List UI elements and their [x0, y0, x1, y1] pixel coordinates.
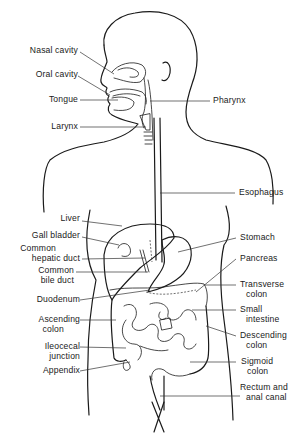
leader-duodenum — [80, 290, 150, 300]
label-transverse-colon: Transverse colon — [240, 280, 284, 300]
label-pancreas: Pancreas — [240, 254, 278, 264]
liver-shape — [104, 224, 174, 300]
label-common-hepatic-duct: Common hepatic duct — [20, 244, 80, 264]
label-liver: Liver — [61, 214, 80, 224]
label-duodenum: Duodenum — [37, 295, 80, 305]
label-small-intestine: Small intestine — [240, 305, 279, 325]
label-oral-cavity: Oral cavity — [36, 70, 78, 80]
label-gall-bladder: Gall bladder — [32, 231, 80, 241]
label-stomach: Stomach — [240, 233, 275, 243]
label-tongue: Tongue — [49, 95, 78, 105]
bile-ducts — [140, 250, 149, 272]
torso-right — [221, 206, 233, 420]
label-appendix: Appendix — [43, 366, 80, 376]
label-common-bile-duct: Common bile duct — [38, 266, 74, 286]
torso-left — [87, 210, 96, 415]
appendix-shape — [123, 360, 130, 370]
sigmoid-colon-shape — [152, 369, 190, 380]
leader-nasal-cavity — [80, 52, 114, 74]
palate — [110, 89, 146, 104]
label-descending-colon: Descending colon — [240, 331, 287, 351]
head-outline — [104, 12, 273, 204]
pharynx-wall — [148, 80, 153, 140]
label-ileocecal-junction: Ileocecal junction — [45, 342, 80, 362]
leader-ileocecal-junction — [80, 347, 126, 348]
label-nasal-cavity: Nasal cavity — [30, 46, 78, 56]
digestive-system-diagram: Nasal cavity Oral cavity Tongue Larynx L… — [0, 0, 306, 439]
larynx-shape — [140, 114, 150, 130]
leader-oral-cavity — [78, 76, 110, 95]
label-ascending-colon: Ascending colon — [39, 315, 80, 335]
esophagus-tube — [154, 118, 156, 260]
ascending-colon-shape — [111, 300, 126, 361]
leader-common-hepatic-duct — [82, 258, 145, 259]
nasal-cavity-shape — [112, 63, 146, 83]
leader-descending-colon — [206, 326, 236, 336]
label-larynx: Larynx — [51, 122, 78, 132]
label-sigmoid-colon: Sigmoid colon — [241, 357, 273, 377]
small-intestine-shape — [122, 303, 196, 360]
leader-gall-bladder — [82, 237, 119, 245]
label-pharynx: Pharynx — [213, 96, 246, 106]
stomach-shape — [148, 237, 191, 292]
label-esophagus: Esophagus — [239, 188, 283, 198]
leader-pancreas — [196, 259, 236, 292]
tongue-shape — [112, 97, 134, 110]
label-rectum-anal-canal: Rectum and anal canal — [240, 383, 288, 403]
rectum-shape — [150, 376, 160, 410]
gall-bladder-shape — [118, 244, 131, 257]
descending-colon-shape — [190, 306, 209, 374]
ear — [162, 62, 170, 80]
